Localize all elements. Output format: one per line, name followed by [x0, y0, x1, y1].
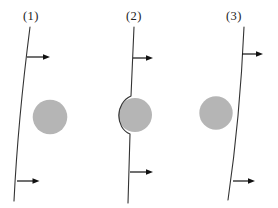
panel-2-label: (2) [126, 10, 142, 23]
panel-1 [14, 27, 67, 201]
arrow-head-icon [146, 55, 153, 60]
arrow-head-icon [146, 169, 153, 174]
panel-2 [118, 27, 153, 203]
arrow-head-icon [43, 54, 50, 59]
diagram-canvas [0, 0, 278, 208]
three-panel-diagram: (1) (2) (3) [0, 0, 278, 208]
panel-3-label: (3) [226, 10, 242, 23]
arrow-head-icon [248, 178, 255, 183]
sphere [33, 100, 68, 135]
arrow-head-icon [256, 51, 263, 56]
arrow-head-icon [33, 178, 40, 183]
panel-1-label: (1) [23, 10, 39, 23]
sphere [199, 96, 232, 129]
curved-line [14, 27, 30, 201]
panel-3 [199, 27, 263, 200]
